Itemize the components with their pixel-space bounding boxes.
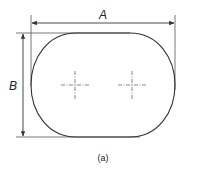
oblong-outline: [31, 33, 175, 137]
dimension-label-b: B: [9, 79, 17, 93]
figure-caption: (a): [98, 153, 109, 163]
center-mark-left: [61, 71, 89, 99]
diagram-figure: A B (a): [0, 0, 207, 173]
center-mark-right: [118, 71, 146, 99]
dimension-label-a: A: [98, 8, 107, 22]
